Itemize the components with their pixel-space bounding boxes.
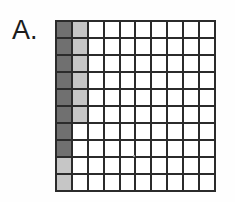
grid-cell-r4-c3: [89, 73, 103, 88]
grid-cell-r6-c7: [152, 107, 166, 122]
grid-cell-r1-c6: [136, 22, 150, 37]
grid-cell-r10-c9: [184, 175, 198, 190]
grid-cell-r4-c10: [200, 73, 214, 88]
grid-cell-r6-c6: [136, 107, 150, 122]
grid-cell-r2-c1: [57, 39, 71, 54]
grid-cell-r10-c3: [89, 175, 103, 190]
grid-cell-r3-c8: [168, 56, 182, 71]
grid-cell-r8-c7: [152, 141, 166, 156]
grid-cell-r3-c2: [73, 56, 87, 71]
figure-panel: A.: [0, 0, 235, 202]
grid-cell-r10-c10: [200, 175, 214, 190]
grid-cell-r10-c2: [73, 175, 87, 190]
grid-cell-r5-c4: [105, 90, 119, 105]
grid-cell-r2-c2: [73, 39, 87, 54]
grid-cell-r8-c4: [105, 141, 119, 156]
grid-cell-r6-c5: [121, 107, 135, 122]
grid-cell-r10-c1: [57, 175, 71, 190]
grid-cell-r7-c5: [121, 124, 135, 139]
grid-cell-r4-c4: [105, 73, 119, 88]
grid-cell-r6-c9: [184, 107, 198, 122]
grid-cell-r5-c5: [121, 90, 135, 105]
grid-cell-r4-c6: [136, 73, 150, 88]
grid-cell-r4-c7: [152, 73, 166, 88]
grid-cell-r7-c7: [152, 124, 166, 139]
grid-cell-r9-c6: [136, 158, 150, 173]
grid-cell-r7-c3: [89, 124, 103, 139]
grid-cell-r1-c7: [152, 22, 166, 37]
grid-cell-r1-c2: [73, 22, 87, 37]
grid-cell-r10-c6: [136, 175, 150, 190]
grid-cell-r2-c7: [152, 39, 166, 54]
grid-cell-r10-c8: [168, 175, 182, 190]
grid-cell-r7-c4: [105, 124, 119, 139]
grid-cell-r9-c3: [89, 158, 103, 173]
grid-cell-r7-c10: [200, 124, 214, 139]
grid-cell-r8-c8: [168, 141, 182, 156]
grid-cell-r7-c6: [136, 124, 150, 139]
grid-cell-r9-c5: [121, 158, 135, 173]
grid-cell-r2-c4: [105, 39, 119, 54]
grid-cell-r1-c9: [184, 22, 198, 37]
grid-cell-r8-c6: [136, 141, 150, 156]
grid-cell-r1-c3: [89, 22, 103, 37]
grid-cell-r1-c8: [168, 22, 182, 37]
grid-cell-r6-c1: [57, 107, 71, 122]
grid-cell-r8-c3: [89, 141, 103, 156]
grid-cell-r9-c2: [73, 158, 87, 173]
grid-cell-r3-c7: [152, 56, 166, 71]
grid-cell-r2-c8: [168, 39, 182, 54]
grid-cell-r5-c3: [89, 90, 103, 105]
grid-cell-r9-c8: [168, 158, 182, 173]
grid-cell-r1-c10: [200, 22, 214, 37]
grid-cell-r9-c9: [184, 158, 198, 173]
panel-label: A.: [12, 17, 38, 44]
grid-cell-r1-c1: [57, 22, 71, 37]
grid-cell-r2-c5: [121, 39, 135, 54]
grid-cell-r4-c2: [73, 73, 87, 88]
grid-cell-r6-c2: [73, 107, 87, 122]
grid-cell-r5-c1: [57, 90, 71, 105]
grid-cell-r8-c1: [57, 141, 71, 156]
grid-cell-r4-c5: [121, 73, 135, 88]
grid-cell-r5-c10: [200, 90, 214, 105]
grid-container: [55, 20, 216, 192]
grid-cell-r4-c1: [57, 73, 71, 88]
grid-cell-r8-c5: [121, 141, 135, 156]
grid-cell-r7-c2: [73, 124, 87, 139]
grid-cell-r9-c10: [200, 158, 214, 173]
grid-cell-r5-c8: [168, 90, 182, 105]
grid-cell-r7-c8: [168, 124, 182, 139]
grid-cell-r8-c9: [184, 141, 198, 156]
grid-cell-r5-c2: [73, 90, 87, 105]
grid-cell-r2-c6: [136, 39, 150, 54]
grid-cell-r2-c3: [89, 39, 103, 54]
grid-cell-r2-c10: [200, 39, 214, 54]
grid-cell-r10-c5: [121, 175, 135, 190]
grid-cell-r5-c6: [136, 90, 150, 105]
grid-cell-r4-c8: [168, 73, 182, 88]
grid-cell-r6-c3: [89, 107, 103, 122]
grid-cell-r10-c7: [152, 175, 166, 190]
grid-cell-r3-c4: [105, 56, 119, 71]
grid-cell-r3-c5: [121, 56, 135, 71]
grid-cell-r6-c4: [105, 107, 119, 122]
grid-cell-r3-c10: [200, 56, 214, 71]
grid-cell-r7-c1: [57, 124, 71, 139]
grid-cell-r5-c7: [152, 90, 166, 105]
grid-cell-r6-c8: [168, 107, 182, 122]
grid-cell-r3-c1: [57, 56, 71, 71]
grid-cell-r6-c10: [200, 107, 214, 122]
grid-cell-r5-c9: [184, 90, 198, 105]
grid-cell-r3-c9: [184, 56, 198, 71]
grid-cell-r8-c10: [200, 141, 214, 156]
grid-cell-r2-c9: [184, 39, 198, 54]
grid-cell-r4-c9: [184, 73, 198, 88]
grid-cell-r1-c5: [121, 22, 135, 37]
grid-cell-r3-c6: [136, 56, 150, 71]
grid-cell-r9-c7: [152, 158, 166, 173]
scan-speck: [133, 155, 135, 157]
grid-cell-r9-c4: [105, 158, 119, 173]
grid-cell-r10-c4: [105, 175, 119, 190]
grid-cell-r3-c3: [89, 56, 103, 71]
